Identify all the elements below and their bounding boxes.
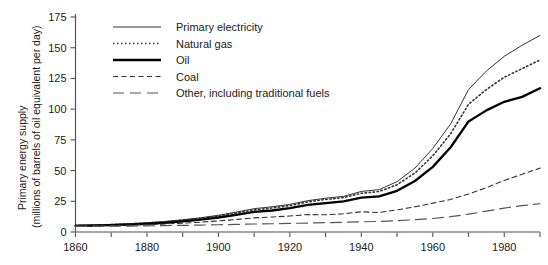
x-tick-label: 1960 (421, 241, 445, 253)
y-axis-title: Primary energy supply (millions of barre… (0, 0, 60, 265)
series-line (76, 88, 541, 226)
x-tick-label: 1980 (492, 241, 516, 253)
x-tick-label: 1860 (63, 241, 87, 253)
chart-figure: Primary energy supply (millions of barre… (0, 0, 548, 265)
legend-label: Coal (176, 71, 199, 83)
x-axis-ticks: 1860188019001920194019601980 (63, 232, 540, 253)
x-tick-label: 1940 (349, 241, 373, 253)
x-tick-label: 1900 (206, 241, 230, 253)
chart-canvas: 0255075100125150175 18601880190019201940… (0, 0, 548, 265)
chart-legend: Primary electricityNatural gasOilCoalOth… (113, 21, 330, 99)
data-series-group (76, 35, 541, 226)
x-tick-label: 1920 (278, 241, 302, 253)
legend-label: Oil (176, 54, 189, 66)
series-line (76, 35, 541, 225)
series-line (76, 168, 541, 226)
x-tick-label: 1880 (135, 241, 159, 253)
legend-label: Other, including traditional fuels (176, 87, 330, 99)
legend-label: Natural gas (176, 38, 233, 50)
y-axis-title-line1: Primary energy supply (16, 106, 29, 210)
y-axis-title-line2: (millions of barrels of oil equivalent p… (30, 25, 43, 228)
legend-label: Primary electricity (176, 21, 263, 33)
y-tick-label: 0 (60, 226, 66, 238)
